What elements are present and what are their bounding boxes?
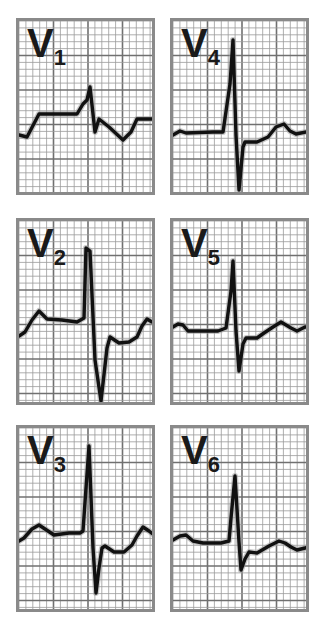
lead-letter: V <box>181 428 207 472</box>
lead-number: 3 <box>54 452 66 477</box>
lead-number: 5 <box>208 245 220 270</box>
lead-number: 6 <box>208 452 220 477</box>
lead-letter: V <box>27 21 53 65</box>
lead-letter: V <box>27 428 53 472</box>
ecg-panel-v3: V3 <box>16 425 155 612</box>
ecg-panel-v4: V4 <box>170 18 309 195</box>
ecg-panel-v2: V2 <box>16 218 155 405</box>
lead-number: 2 <box>54 245 66 270</box>
lead-label-v1: V1 <box>27 23 66 63</box>
ecg-panel-v5: V5 <box>170 218 309 405</box>
lead-label-v4: V4 <box>181 23 220 63</box>
lead-letter: V <box>27 221 53 265</box>
lead-label-v5: V5 <box>181 223 220 263</box>
ecg-panel-v6: V6 <box>170 425 309 612</box>
lead-number: 4 <box>208 45 220 70</box>
lead-number: 1 <box>54 45 66 70</box>
lead-letter: V <box>181 21 207 65</box>
lead-letter: V <box>181 221 207 265</box>
lead-label-v2: V2 <box>27 223 66 263</box>
ecg-panel-v1: V1 <box>16 18 155 195</box>
lead-label-v6: V6 <box>181 430 220 470</box>
lead-label-v3: V3 <box>27 430 66 470</box>
